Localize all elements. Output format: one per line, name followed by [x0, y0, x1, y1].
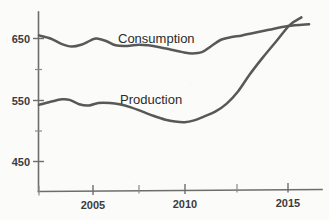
- line-chart: 650 550 450 2005 2010 2015 Consumption P…: [0, 0, 329, 220]
- x-axis-line: [39, 190, 323, 192]
- series-annotation-consumption: Consumption: [118, 31, 195, 46]
- y-axis-label-650: 650: [12, 33, 30, 45]
- x-axis-label-2010: 2010: [173, 198, 197, 210]
- chart-canvas: 650 550 450 2005 2010 2015 Consumption P…: [0, 0, 329, 220]
- y-axis-label-550: 550: [12, 95, 30, 107]
- y-axis-label-450: 450: [12, 156, 30, 168]
- series-annotation-production: Production: [120, 92, 182, 107]
- x-axis-label-2005: 2005: [81, 199, 105, 211]
- x-axis-label-2015: 2015: [276, 197, 300, 209]
